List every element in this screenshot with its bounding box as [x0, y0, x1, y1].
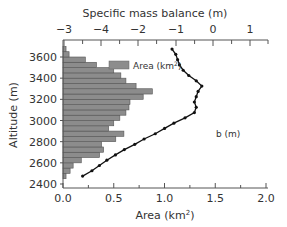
area-bar	[63, 163, 73, 168]
data-point	[195, 106, 198, 109]
area-bar	[63, 121, 114, 126]
data-point	[172, 122, 175, 125]
y-tick-label: 3200	[29, 93, 57, 106]
legend-label: Area (km2)	[133, 60, 181, 71]
top-tick-label: 1	[247, 23, 254, 36]
data-point	[195, 95, 198, 98]
data-point	[174, 53, 177, 56]
area-bar	[63, 147, 104, 152]
area-bar	[63, 105, 129, 110]
area-bar	[63, 52, 69, 57]
area-bar	[63, 142, 102, 147]
x-tick-label: 0.5	[105, 192, 123, 205]
data-point	[193, 100, 196, 103]
y-tick-label: 2400	[29, 178, 57, 191]
data-point	[170, 47, 173, 50]
data-point	[133, 143, 136, 146]
top-tick-label: −4	[93, 23, 109, 36]
data-point	[98, 164, 101, 167]
area-bar	[63, 99, 130, 104]
y-tick-label: 3000	[29, 115, 57, 128]
data-point	[187, 74, 190, 77]
top-tick-label: 0	[210, 23, 217, 36]
data-point	[195, 79, 198, 82]
x-axis-title: Area (km2)	[136, 209, 195, 222]
data-point	[154, 132, 157, 135]
data-point	[197, 90, 200, 93]
data-point	[114, 153, 117, 156]
area-bar	[63, 136, 116, 141]
y-tick-label: 3600	[29, 51, 57, 64]
data-point	[163, 127, 166, 130]
area-bar	[63, 73, 121, 78]
data-point	[81, 174, 84, 177]
area-bar	[63, 126, 109, 131]
area-bar	[63, 62, 96, 67]
y-tick-label: 3400	[29, 72, 57, 85]
mass-balance-chart: 0.00.51.01.52.02400260028003000320034003…	[0, 0, 287, 227]
data-point	[105, 159, 108, 162]
area-bar	[63, 168, 70, 173]
data-point	[193, 111, 196, 114]
area-bar	[63, 89, 152, 94]
x-tick-label: 1.5	[207, 192, 225, 205]
top-tick-label: −3	[56, 23, 72, 36]
x-tick-label: 1.0	[156, 192, 174, 205]
data-point	[90, 169, 93, 172]
y-tick-label: 2600	[29, 157, 57, 170]
y-tick-label: 2800	[29, 136, 57, 149]
x-tick-label: 0.0	[54, 192, 72, 205]
line-label: b (m)	[216, 129, 240, 139]
data-point	[183, 116, 186, 119]
data-point	[200, 85, 203, 88]
data-point	[142, 137, 145, 140]
area-bar	[63, 78, 126, 83]
area-bar	[63, 152, 100, 157]
area-bar	[63, 94, 143, 99]
area-bar	[63, 57, 85, 62]
data-point	[182, 69, 185, 72]
top-axis-title: Specific mass balance (m)	[83, 7, 228, 20]
x-tick-label: 2.0	[257, 192, 275, 205]
area-bar	[63, 68, 114, 73]
area-bar	[63, 83, 136, 88]
y-axis-title: Altitude (m)	[7, 82, 20, 148]
legend-swatch	[109, 61, 129, 69]
data-point	[123, 148, 126, 151]
area-bar	[63, 131, 124, 136]
top-tick-label: −1	[168, 23, 184, 36]
top-tick-label: −2	[130, 23, 146, 36]
area-bar	[63, 158, 81, 163]
area-bar	[63, 115, 120, 120]
area-bar	[63, 110, 126, 115]
chart-svg: 0.00.51.01.52.02400260028003000320034003…	[0, 0, 287, 227]
